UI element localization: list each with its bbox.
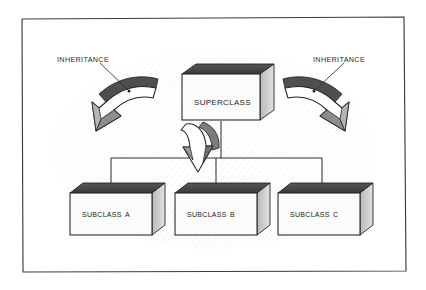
inheritance-diagram: Superclass Subclass A Subclass B Subclas… [0,0,426,290]
subclass-c-label: Subclass C [290,207,338,219]
superclass-label: Superclass [194,95,251,107]
superclass-box[interactable] [182,64,274,120]
inheritance-annotation-right: INHERITANCE [313,55,365,64]
diagram-canvas [0,0,426,290]
diagram-page: Superclass Subclass A Subclass B Subclas… [0,0,426,290]
subclass-a-label: Subclass A [82,207,130,219]
subclass-b-label: Subclass B [187,207,235,219]
inheritance-annotation-left: INHERITANCE [57,55,109,64]
